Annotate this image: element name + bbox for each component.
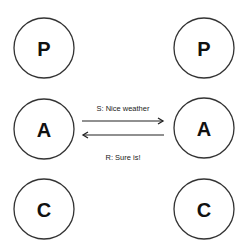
left-child-label: C	[37, 199, 51, 221]
left-child-node: C	[14, 179, 74, 239]
right-adult-node: A	[174, 98, 234, 158]
right-parent-node: P	[174, 18, 234, 78]
left-parent-node: P	[14, 18, 74, 78]
left-adult-label: A	[37, 119, 51, 141]
left-parent-label: P	[37, 38, 50, 60]
right-parent-label: P	[197, 38, 210, 60]
right-child-node: C	[174, 179, 234, 239]
stimulus-label: S: Nice weather	[97, 104, 150, 113]
left-adult-node: A	[14, 99, 74, 159]
right-adult-label: A	[197, 118, 211, 140]
response-label: R: Sure is!	[105, 153, 140, 162]
pac-transaction-diagram: P A C P A C S: Nice weather R: Sure is!	[0, 0, 247, 252]
right-child-label: C	[197, 199, 211, 221]
